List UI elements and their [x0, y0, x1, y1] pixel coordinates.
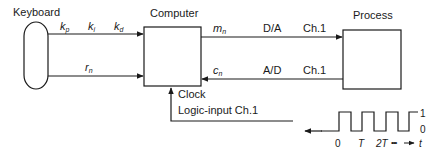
computer-box — [144, 27, 201, 86]
mn-label: mn — [213, 22, 226, 38]
level-1-label: 1 — [420, 108, 426, 120]
keyboard-label: Keyboard — [13, 6, 60, 18]
kp-label: kp — [60, 20, 69, 36]
time-ellipsis: ••• — [391, 137, 396, 149]
cn-label: cn — [213, 64, 222, 80]
computer-label: Computer — [150, 7, 198, 19]
rn-label: rn — [85, 61, 93, 77]
time-T-label: T — [358, 138, 364, 150]
ki-label: ki — [88, 20, 95, 36]
time-2T-label: 2T — [376, 138, 388, 150]
process-label: Process — [353, 9, 393, 21]
ad-label: A/D — [263, 64, 281, 76]
time-axis-label: t — [419, 138, 422, 150]
output-channel-label: Ch.1 — [303, 22, 326, 34]
process-box — [343, 30, 401, 89]
time-0-label: 0 — [335, 138, 341, 150]
level-0-label: 0 — [420, 124, 426, 136]
clock-label: Clock — [178, 88, 206, 100]
square-wave — [321, 112, 418, 131]
kd-label: kd — [114, 20, 123, 36]
input-channel-label: Ch.1 — [303, 64, 326, 76]
da-label: D/A — [263, 22, 281, 34]
control-loop-diagram: Keyboard Computer Process kp ki kd rn mn… — [0, 0, 428, 157]
logic-input-label: Logic-input Ch.1 — [178, 104, 258, 116]
keyboard-shape — [24, 22, 48, 89]
